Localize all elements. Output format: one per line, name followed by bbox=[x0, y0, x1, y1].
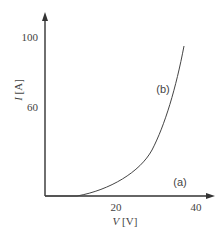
annotation-a: (a) bbox=[173, 176, 186, 188]
x-tick-40: 40 bbox=[191, 201, 203, 213]
x-tick-20: 20 bbox=[111, 201, 123, 213]
curve-b bbox=[45, 46, 184, 196]
y-axis-label-unit: [A] bbox=[12, 79, 24, 97]
x-axis-label-unit: [V] bbox=[119, 215, 137, 227]
y-axis-arrow-icon bbox=[42, 12, 48, 21]
annotation-b: (b) bbox=[156, 83, 169, 95]
x-axis-label: V [V] bbox=[113, 215, 138, 227]
y-tick-60: 60 bbox=[27, 101, 39, 113]
y-axis-label: I [A] bbox=[12, 79, 24, 102]
y-tick-100: 100 bbox=[22, 31, 39, 43]
x-axis-arrow-icon bbox=[206, 193, 215, 199]
iv-chart: 100 60 20 40 V [V] I [A] (b) (a) bbox=[0, 0, 222, 239]
